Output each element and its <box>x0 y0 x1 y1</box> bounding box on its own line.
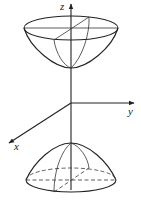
lower-meridian-front <box>54 143 71 192</box>
y-axis-label: y <box>127 105 133 117</box>
z-axis-label: z <box>59 0 65 12</box>
upper-meridian-back <box>71 17 89 68</box>
hyperboloid-diagram: z y x <box>0 0 141 204</box>
x-axis <box>9 103 71 143</box>
x-axis-label: x <box>13 140 19 152</box>
